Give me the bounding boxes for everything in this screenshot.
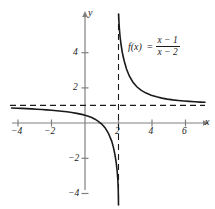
x-tick-label-4: 4	[149, 127, 154, 137]
y-tick-label--4: −4	[68, 189, 79, 199]
x-axis-label: x	[205, 117, 209, 127]
y-tick-label-2: 2	[73, 83, 78, 93]
function-equation: f(x) = x − 1 x − 2	[128, 36, 180, 57]
y-axis-arrow	[82, 11, 88, 17]
x-tick-label-6: 6	[182, 127, 187, 137]
fraction-denominator: x − 2	[156, 46, 180, 57]
plot-canvas	[0, 0, 215, 209]
fraction: x − 1 x − 2	[156, 36, 180, 57]
y-axis-label: y	[88, 8, 92, 18]
fraction-numerator: x − 1	[156, 36, 180, 46]
equals-sign: =	[147, 42, 153, 52]
x-tick-label--2: −2	[44, 127, 55, 137]
x-tick-label-2: 2	[115, 127, 120, 137]
function-name: f(x)	[128, 42, 142, 52]
y-tick-label-4: 4	[73, 48, 78, 58]
y-tick-label--2: −2	[68, 154, 79, 164]
curve-right-branch	[119, 14, 205, 102]
rational-function-figure: −4 −2 2 4 6 4 2 −2 −4 y x f(x) = x − 1 x…	[0, 0, 215, 209]
x-tick-label--4: −4	[11, 127, 22, 137]
